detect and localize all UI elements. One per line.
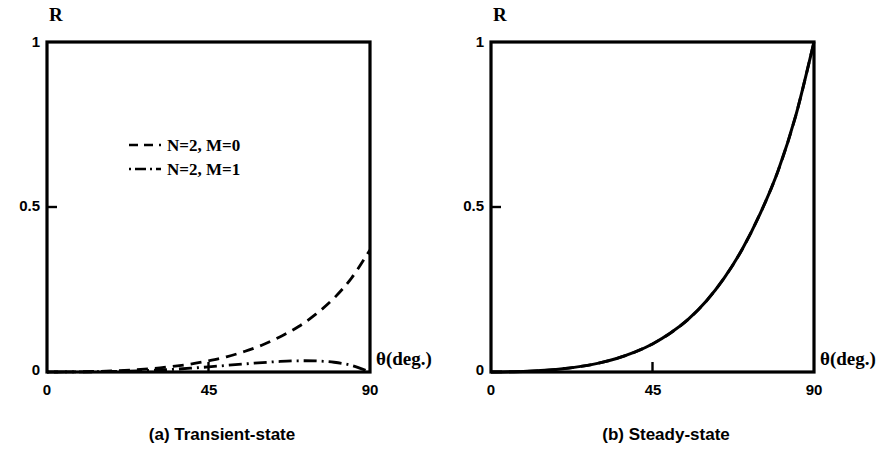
data-series-group-a [47,250,370,372]
chart-panel-a: R θ(deg.) 1 0.5 0 0 45 90 N=2, M=0 [0,0,444,472]
panel-caption-a: (a) Transient-state [0,425,444,445]
legend-label-1-a: N=2, M=1 [167,161,240,178]
legend-a: N=2, M=0 N=2, M=1 [128,133,240,181]
data-line-a-0 [47,250,370,372]
legend-label-0-a: N=2, M=0 [167,137,240,154]
data-line-b-0 [491,42,814,372]
plot-area-b [444,0,888,472]
legend-item-1-a: N=2, M=1 [128,157,240,181]
panel-caption-b: (b) Steady-state [444,425,888,445]
plot-area-a [0,0,444,472]
data-line-b-1 [491,42,814,372]
figure-two-panel-chart: R θ(deg.) 1 0.5 0 0 45 90 N=2, M=0 [0,0,888,472]
data-series-group-b [491,42,814,372]
legend-item-0-a: N=2, M=0 [128,133,240,157]
legend-line-dashdot-icon-a [128,162,162,176]
plot-frame-b [491,42,814,372]
chart-panel-b: R θ(deg.) 1 0.5 0 0 45 90 N=2 [444,0,888,472]
legend-line-dashed-icon-a [128,138,162,152]
plot-frame-a [47,42,370,372]
